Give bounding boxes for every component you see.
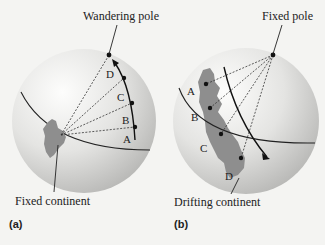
point-label-a: A: [123, 133, 131, 145]
panel-label-a: (a): [9, 218, 23, 230]
point-label-b: B: [122, 114, 129, 126]
pole-leader-a: [109, 25, 117, 54]
point-label-d: D: [225, 170, 233, 182]
figure: D C B A Wandering pole Fixed continent (…: [0, 0, 325, 245]
panel-b: A B C D Fixed pole Drifting continent (b…: [173, 9, 319, 230]
wandering-pole-label: Wandering pole: [83, 9, 159, 23]
point-label-a: A: [187, 85, 195, 97]
panel-label-b: (b): [174, 218, 188, 230]
drifting-continent-label: Drifting continent: [174, 195, 261, 209]
point-label-c: C: [200, 142, 207, 154]
point-label-b: B: [191, 111, 198, 123]
pole-leader-b: [273, 25, 282, 54]
point-label-d: D: [106, 68, 114, 80]
globe-a: [12, 49, 156, 193]
fixed-continent-label: Fixed continent: [15, 194, 91, 208]
fixed-pole-label: Fixed pole: [262, 9, 313, 23]
point-label-c: C: [117, 91, 124, 103]
panel-a: D C B A Wandering pole Fixed continent (…: [9, 9, 159, 230]
